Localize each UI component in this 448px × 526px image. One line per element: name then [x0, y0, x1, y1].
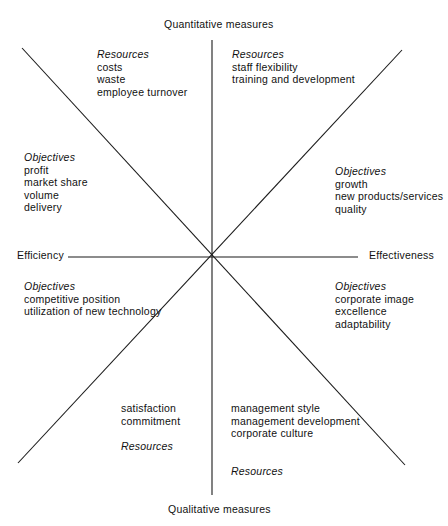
- sector-item: management style: [231, 402, 360, 415]
- sector-bottom-right: management style management development …: [231, 402, 360, 478]
- spacer: [121, 427, 180, 440]
- spacer: [231, 452, 360, 465]
- sector-item: competitive position: [24, 293, 161, 306]
- sector-heading: Objectives: [24, 151, 88, 164]
- sector-bottom-left: satisfaction commitment Resources: [121, 402, 180, 452]
- sector-heading: Resources: [231, 465, 360, 478]
- axis-lines-group: [0, 0, 448, 526]
- sector-heading: Objectives: [335, 165, 443, 178]
- sector-heading: Objectives: [24, 280, 161, 293]
- sector-item: excellence: [335, 305, 414, 318]
- sector-item: adaptability: [335, 318, 414, 331]
- sector-item: management development: [231, 415, 360, 428]
- sector-item: commitment: [121, 415, 180, 428]
- sector-item: quality: [335, 203, 443, 216]
- sector-item: employee turnover: [97, 86, 188, 99]
- sector-right-lower: Objectives corporate image excellence ad…: [335, 280, 414, 330]
- performance-measures-diagram: Quantitative measures Qualitative measur…: [0, 0, 448, 526]
- sector-item: staff flexibility: [232, 61, 355, 74]
- axis-label-quantitative-measures: Quantitative measures: [164, 18, 273, 31]
- sector-right-upper: Objectives growth new products/services …: [335, 165, 443, 215]
- sector-item: delivery: [24, 201, 88, 214]
- sector-item: market share: [24, 176, 88, 189]
- sector-heading: Objectives: [335, 280, 414, 293]
- sector-top-left: Resources costs waste employee turnover: [97, 48, 188, 98]
- sector-heading: Resources: [97, 48, 188, 61]
- sector-item: profit: [24, 164, 88, 177]
- sector-item: new products/services: [335, 190, 443, 203]
- sector-top-right: Resources staff flexibility training and…: [232, 48, 355, 86]
- sector-item: satisfaction: [121, 402, 180, 415]
- sector-item: waste: [97, 73, 188, 86]
- sector-item: corporate culture: [231, 427, 360, 440]
- sector-heading: Resources: [121, 440, 180, 453]
- spacer: [231, 440, 360, 453]
- sector-item: growth: [335, 178, 443, 191]
- sector-item: utilization of new technology: [24, 305, 161, 318]
- sector-item: training and development: [232, 73, 355, 86]
- sector-left-lower: Objectives competitive position utilizat…: [24, 280, 161, 318]
- axis-label-effectiveness: Effectiveness: [369, 249, 434, 262]
- sector-item: costs: [97, 61, 188, 74]
- sector-heading: Resources: [232, 48, 355, 61]
- sector-item: volume: [24, 189, 88, 202]
- axis-label-efficiency: Efficiency: [17, 249, 64, 262]
- sector-left-upper: Objectives profit market share volume de…: [24, 151, 88, 214]
- axis-label-qualitative-measures: Qualitative measures: [168, 503, 271, 516]
- sector-item: corporate image: [335, 293, 414, 306]
